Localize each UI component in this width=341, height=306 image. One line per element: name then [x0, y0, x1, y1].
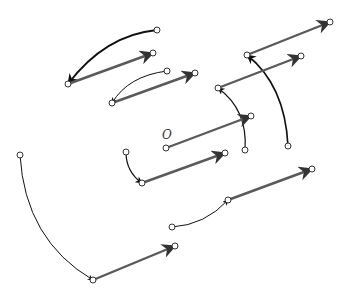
vector-arrow-3	[218, 56, 301, 88]
point	[109, 100, 115, 106]
point	[327, 19, 333, 25]
vector-arrow-6	[228, 169, 312, 200]
origin-label: O	[162, 128, 172, 142]
point	[150, 50, 156, 56]
vector-arrows	[68, 22, 330, 280]
point	[164, 68, 170, 74]
diagram-canvas: O	[0, 0, 341, 306]
point	[248, 113, 254, 119]
vector-arrow-7	[93, 246, 175, 280]
point	[215, 85, 221, 91]
vector-arrow-2	[247, 22, 330, 55]
point	[90, 277, 96, 283]
curved-arrow-6	[20, 155, 93, 280]
curved-arrow-5	[172, 200, 228, 227]
point	[17, 152, 23, 158]
point	[169, 224, 175, 230]
point	[309, 166, 315, 172]
point	[285, 143, 291, 149]
point	[154, 27, 160, 33]
point	[65, 81, 71, 87]
point	[298, 53, 304, 59]
curved-arrows	[20, 30, 288, 280]
point	[225, 197, 231, 203]
vector-arrow-4	[166, 116, 251, 148]
point	[222, 150, 228, 156]
point	[172, 243, 178, 249]
curved-arrow-4	[126, 152, 142, 183]
point	[123, 149, 129, 155]
point	[139, 180, 145, 186]
point	[163, 145, 169, 151]
points	[17, 19, 333, 283]
point	[242, 147, 248, 153]
vector-arrow-5	[142, 153, 225, 183]
point	[192, 70, 198, 76]
point	[244, 52, 250, 58]
